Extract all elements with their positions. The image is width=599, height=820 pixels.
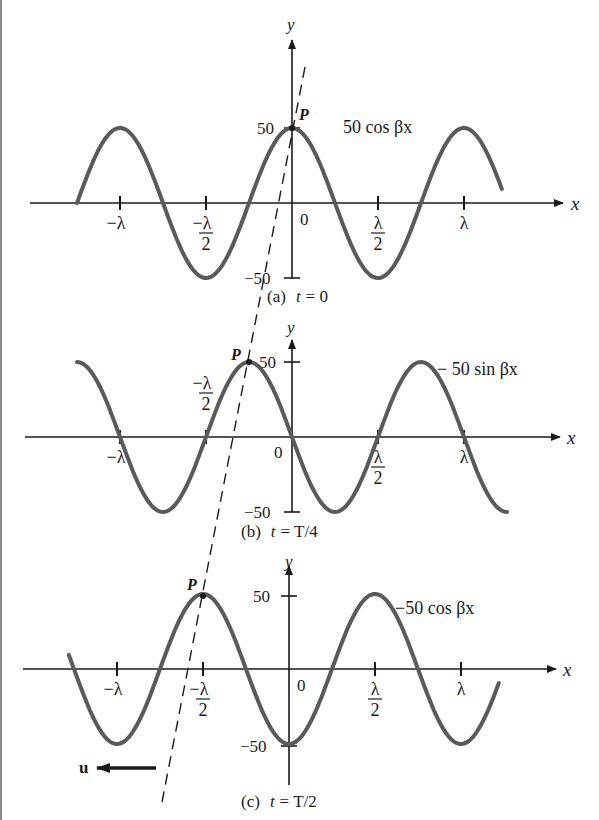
panel-a: y x 50 −50 0 −λ−λ2λ2λ 50 cos βx P (a)t= …	[30, 15, 580, 306]
y-tick-label-neg50: −50	[240, 737, 267, 756]
y-tick-label-50: 50	[253, 587, 270, 606]
x-tick-label-denominator: 2	[371, 700, 380, 720]
x-tick-label-denominator: 2	[202, 234, 211, 254]
page-edge	[0, 0, 2, 820]
point-p-label: P	[186, 576, 197, 593]
caption-a: (a)t= 0	[267, 287, 328, 306]
x-axis-label: x	[562, 659, 572, 680]
origin-label: 0	[297, 676, 306, 695]
x-tick-label: −λ	[107, 213, 126, 233]
origin-label: 0	[300, 210, 309, 229]
x-tick-label: −λ	[104, 679, 123, 699]
point-p-b	[246, 359, 252, 365]
x-tick-label: −λ	[193, 373, 212, 393]
x-tick-label-denominator: 2	[374, 468, 383, 488]
wave-figure: y x 50 −50 0 −λ−λ2λ2λ 50 cos βx P (a)t= …	[0, 0, 599, 820]
x-tick-label: λ	[371, 679, 380, 699]
y-axis-label: y	[285, 15, 295, 34]
point-p-a	[289, 125, 295, 131]
x-tick-label: λ	[460, 213, 469, 233]
y-tick-label-neg50: −50	[244, 503, 271, 522]
x-tick-label-denominator: 2	[202, 394, 211, 414]
point-p-label: P	[230, 346, 241, 363]
x-tick-label-denominator: 2	[374, 234, 383, 254]
velocity-label: u	[79, 758, 88, 777]
curve-label: −50 cos βx	[395, 598, 474, 618]
y-tick-label-neg50: −50	[244, 269, 271, 288]
panel-b: y x 50 −50 0 −λ−λ2λ2λ − 50 sin βx P (b)t…	[25, 318, 576, 541]
x-tick-label-denominator: 2	[199, 700, 208, 720]
caption-b: (b)t= T/4	[241, 522, 318, 541]
x-tick-label: −λ	[190, 679, 209, 699]
point-p-label: P	[298, 106, 309, 123]
y-axis-label: y	[285, 318, 295, 337]
curve-label: − 50 sin βx	[437, 359, 518, 379]
figure-canvas: y x 50 −50 0 −λ−λ2λ2λ 50 cos βx P (a)t= …	[0, 0, 599, 820]
curve-label: 50 cos βx	[343, 117, 412, 137]
caption-c: (c)t= T/2	[241, 792, 317, 811]
point-p-c	[200, 593, 206, 599]
x-tick-label: λ	[374, 213, 383, 233]
y-axis-label: y	[283, 552, 293, 571]
y-tick-label-50: 50	[257, 119, 274, 138]
x-axis-label: x	[566, 427, 576, 448]
panel-c: y x 50 −50 0 −λ−λ2λ2λ −50 cos βx P (c)t=…	[23, 552, 572, 811]
phase-point-track-dashed-line	[162, 67, 305, 802]
x-tick-label: −λ	[193, 213, 212, 233]
x-tick-label: λ	[457, 679, 466, 699]
origin-label: 0	[274, 443, 283, 462]
x-axis-label: x	[570, 193, 580, 214]
